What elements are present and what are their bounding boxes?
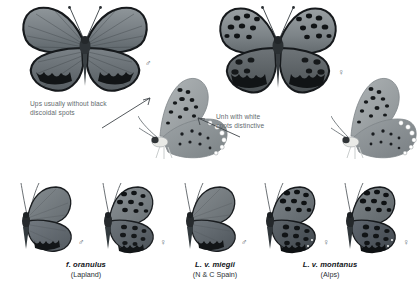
caption-montanus: L. v. montanus (Alps) xyxy=(280,260,380,280)
annotation-ups-note: Ups usually without black discoidal spot… xyxy=(30,100,145,117)
caption-miegii-scientific: L. v. miegii xyxy=(169,260,261,270)
sex-symbol-oranulus-male: ♂ xyxy=(78,238,84,247)
specimen-miegii-male xyxy=(176,183,244,255)
caption-montanus-scientific: L. v. montanus xyxy=(280,260,380,270)
sex-symbol-montanus-female: ♀ xyxy=(403,238,409,247)
plate-canvas: ♂ xyxy=(0,0,419,285)
caption-montanus-locality: (Alps) xyxy=(280,270,380,280)
caption-oranulus-locality: (Lapland) xyxy=(40,270,132,280)
caption-miegii: L. v. miegii (N & C Spain) xyxy=(169,260,261,280)
sex-symbol-miegii-female: ♀ xyxy=(323,238,329,247)
specimen-miegii-female xyxy=(256,183,324,255)
annotation-unh-note: Unh with white spots distinctive xyxy=(216,113,308,130)
sex-symbol-male-top-left: ♂ xyxy=(145,59,151,68)
specimen-oranulus-male xyxy=(12,183,80,255)
specimen-male-upperside xyxy=(14,2,156,98)
specimen-female-underside xyxy=(331,76,419,162)
caption-oranulus-scientific: f. oranulus xyxy=(40,260,132,270)
specimen-female-upperside xyxy=(213,2,343,100)
specimen-oranulus-female xyxy=(94,183,162,255)
caption-miegii-locality: (N & C Spain) xyxy=(169,270,261,280)
sex-symbol-oranulus-female: ♀ xyxy=(160,238,166,247)
sex-symbol-miegii-male: ♂ xyxy=(241,238,247,247)
specimen-montanus-female xyxy=(336,183,404,255)
caption-oranulus: f. oranulus (Lapland) xyxy=(40,260,132,280)
